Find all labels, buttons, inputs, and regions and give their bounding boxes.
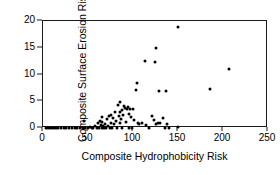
scatter-plot-figure: 05101520 050100150200250 Composite Hydro… xyxy=(0,0,280,175)
data-point xyxy=(228,68,231,71)
data-point xyxy=(114,120,117,123)
x-tick-label: 0 xyxy=(39,133,45,143)
data-point xyxy=(114,111,117,114)
data-point xyxy=(134,89,137,92)
data-point xyxy=(135,81,138,84)
data-point xyxy=(132,118,135,121)
data-point xyxy=(118,100,121,103)
data-point xyxy=(153,61,156,64)
data-point xyxy=(144,123,147,126)
x-tick-mark xyxy=(132,127,133,131)
data-point xyxy=(143,60,146,63)
y-tick-mark xyxy=(37,100,42,101)
y-tick-label: 10 xyxy=(24,69,35,79)
y-axis-title: Composite Surface Erosion Risk xyxy=(75,0,89,142)
y-tick-mark xyxy=(37,20,42,21)
data-point xyxy=(152,118,155,121)
data-point xyxy=(124,120,127,123)
x-tick-label: 200 xyxy=(214,133,231,143)
x-tick-mark xyxy=(42,127,43,131)
y-tick-mark xyxy=(37,73,42,74)
x-tick-mark xyxy=(222,127,223,131)
x-tick-label: 250 xyxy=(259,133,276,143)
data-point xyxy=(161,117,164,120)
x-tick-label: 100 xyxy=(124,133,141,143)
data-point xyxy=(165,90,168,93)
data-point xyxy=(209,88,212,91)
data-point xyxy=(158,90,161,93)
data-point xyxy=(101,116,104,119)
x-axis-title: Composite Hydrophobicity Risk xyxy=(42,150,267,162)
data-point xyxy=(118,122,121,125)
x-tick-label: 150 xyxy=(169,133,186,143)
x-tick-mark xyxy=(267,127,268,131)
x-tick-mark xyxy=(177,127,178,131)
x-axis: 050100150200250 xyxy=(0,127,280,147)
data-point xyxy=(177,25,180,28)
data-point xyxy=(113,123,116,126)
data-point xyxy=(159,121,162,124)
data-point xyxy=(105,118,108,121)
data-point xyxy=(141,121,144,124)
data-point xyxy=(132,108,135,111)
data-point xyxy=(154,47,157,50)
data-point xyxy=(120,118,123,121)
data-point xyxy=(150,115,153,118)
y-tick-label: 15 xyxy=(24,42,35,52)
y-tick-label: 20 xyxy=(24,15,35,25)
data-point xyxy=(122,114,125,117)
data-point xyxy=(125,108,128,111)
data-point xyxy=(116,103,119,106)
y-axis: 05101520 xyxy=(0,0,42,175)
data-point xyxy=(109,121,112,124)
y-tick-label: 5 xyxy=(29,95,35,105)
y-tick-mark xyxy=(37,46,42,47)
